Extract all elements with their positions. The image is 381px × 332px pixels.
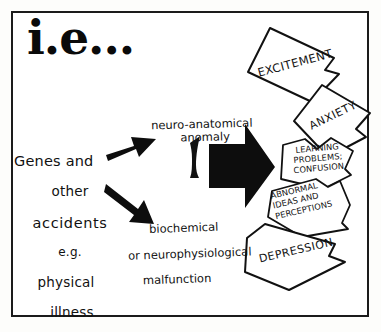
bio-line-1: biochemical: [149, 218, 287, 236]
page-title: i.e...: [27, 14, 134, 61]
bio-line-2: or neurophysiological: [128, 244, 288, 262]
mechanism-label-neuroanatomical: neuro-anatomical anomaly: [141, 103, 262, 158]
mechanism-label-biochemical: biochemical or neurophysiological malfun…: [126, 205, 289, 301]
cause-line-4: e.g.: [16, 246, 124, 259]
cause-line-5: physical: [8, 275, 124, 290]
diagram-canvas: i.e... Genes and other accidents e.g. ph…: [0, 0, 381, 332]
bio-line-3: malfunction: [143, 270, 289, 288]
cause-line-6: illness: [20, 305, 124, 320]
